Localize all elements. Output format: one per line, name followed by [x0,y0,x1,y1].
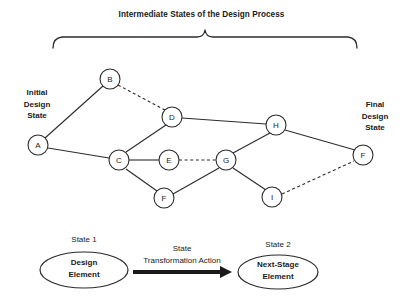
diagram-canvas: A B C D E F G [0,0,403,301]
node-g[interactable]: G [216,150,236,170]
node-h[interactable]: H [266,115,286,135]
final-state-line-3: State [348,122,402,134]
node-f-right[interactable]: F [353,145,373,165]
node-d[interactable]: D [162,107,182,127]
arrow-head-icon [220,266,232,278]
node-f-right-label: F [361,151,366,160]
legend-state2-label: State 2 [238,240,318,249]
legend-left-line-1: Design [40,257,128,269]
edge-d-h [182,118,266,124]
page-title: Intermediate States of the Design Proces… [0,9,403,20]
brace-path [53,30,357,48]
node-h-label: H [273,121,279,130]
node-e-label: E [166,156,171,165]
initial-state-line-1: Initial [10,87,64,99]
transformation-action-label: State Transformation Action [122,243,242,266]
action-line-1: State [122,243,242,255]
edge-b-d [118,85,165,110]
edge-h-f2 [285,130,355,150]
legend-left-ellipse-text: Design Element [40,257,128,280]
legend-state1-label: State 1 [44,235,124,244]
transformation-arrow [133,266,232,278]
node-i[interactable]: I [262,187,282,207]
node-i-label: I [271,193,273,202]
node-a-label: A [35,141,41,150]
final-state-line-2: Design [348,111,402,123]
arrow-shaft [133,270,220,274]
final-state-line-1: Final [348,99,402,111]
legend-right-line-1: Next-Stage [236,259,320,271]
edge-g-h [233,133,270,153]
edges-group [45,85,355,194]
node-a[interactable]: A [28,135,48,155]
final-state-label: Final Design State [348,99,402,134]
legend-left-line-2: Element [40,269,128,281]
edge-c-f1 [126,169,157,191]
nodes-group: A B C D E F G [28,69,373,208]
node-b[interactable]: B [100,69,120,89]
edge-a-c [48,148,109,158]
initial-state-line-3: State [10,110,64,122]
edge-c-d [126,125,166,152]
node-f-lower[interactable]: F [154,188,174,208]
node-c-label: C [116,156,122,165]
legend-right-line-2: Element [236,271,320,283]
node-e[interactable]: E [159,150,179,170]
initial-state-line-2: Design [10,99,64,111]
brace [53,30,357,48]
node-f-lower-label: F [162,194,167,203]
node-g-label: G [223,156,229,165]
edge-i-f2 [282,161,354,194]
legend-right-ellipse-text: Next-Stage Element [236,259,320,282]
edge-f1-g [173,168,219,194]
initial-state-label: Initial Design State [10,87,64,122]
node-b-label: B [107,75,112,84]
edge-g-i [233,168,266,190]
node-c[interactable]: C [109,150,129,170]
action-line-2: Transformation Action [122,255,242,267]
node-d-label: D [169,113,175,122]
